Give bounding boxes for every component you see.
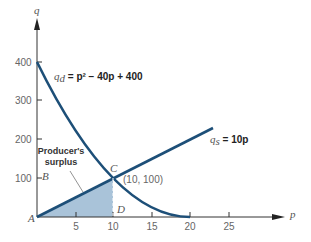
point-d-label: D	[116, 203, 125, 215]
equilibrium-label: (10, 100)	[123, 174, 163, 185]
y-axis-label: q	[34, 4, 40, 16]
x-axis-arrow-icon	[272, 214, 285, 220]
demand-equation-label: qd = p² − 40p + 400	[54, 70, 143, 84]
chart: 100 200 300 400 5 10 15 20 25 q p qd = p…	[0, 0, 311, 242]
supply-curve	[37, 128, 213, 217]
point-c-label: C	[110, 162, 118, 174]
y-tick-label: 100	[15, 173, 32, 184]
y-tick-label: 300	[15, 95, 32, 106]
x-tick-label: 25	[223, 221, 235, 232]
x-tick-label: 10	[107, 221, 119, 232]
y-axis-arrow-icon	[34, 18, 40, 30]
x-tick-label: 20	[184, 221, 196, 232]
y-tick-label: 200	[15, 134, 32, 145]
point-a-label: A	[27, 212, 35, 224]
leader-line	[70, 171, 83, 192]
y-ticks	[37, 62, 42, 178]
x-axis-label: p	[289, 208, 296, 220]
point-b-label: B	[42, 170, 49, 182]
producer-surplus-label: Producer's	[38, 146, 85, 156]
x-tick-label: 5	[73, 221, 79, 232]
y-tick-label: 400	[15, 57, 32, 68]
supply-equation-label: qs = 10p	[210, 133, 248, 147]
producer-surplus-label: surplus	[45, 157, 78, 167]
x-tick-label: 15	[146, 221, 158, 232]
